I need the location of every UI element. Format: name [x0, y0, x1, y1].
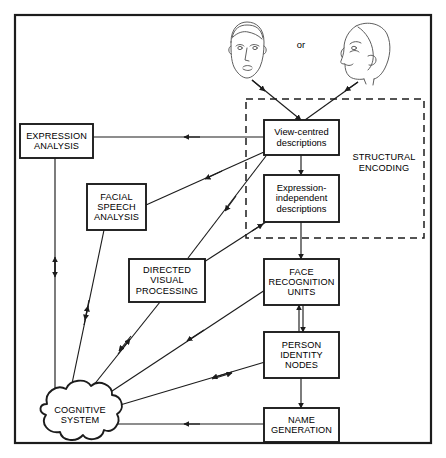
face-recognition-model-diagram: EXPRESSION ANALYSIS FACIAL SPEECH ANALYS… [0, 0, 446, 458]
diagram-frame [15, 15, 431, 443]
label-stimulus-or: or [291, 40, 311, 51]
node-view-centred-descriptions[interactable] [264, 120, 339, 155]
diagram-canvas [0, 0, 446, 458]
label-structural-encoding: STRUCTURAL ENCODING [345, 152, 423, 173]
node-expression-independent-descriptions[interactable] [264, 175, 339, 222]
node-name-generation[interactable] [264, 408, 339, 442]
node-cognitive-system[interactable] [40, 381, 121, 440]
node-expression-analysis[interactable] [20, 124, 93, 158]
node-directed-visual-processing[interactable] [129, 259, 205, 302]
node-person-identity-nodes[interactable] [264, 332, 339, 378]
node-face-recognition-units[interactable] [264, 259, 339, 305]
node-facial-speech-analysis[interactable] [87, 184, 146, 230]
